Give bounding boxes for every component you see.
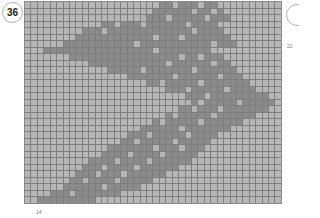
grid-cell xyxy=(275,35,280,41)
grid-cell xyxy=(102,106,107,112)
grid-cell xyxy=(237,87,242,93)
grid-cell xyxy=(243,191,248,197)
grid-cell xyxy=(173,80,178,86)
grid-cell xyxy=(179,197,184,203)
grid-cell xyxy=(250,74,255,80)
grid-cell xyxy=(141,165,146,171)
grid-cell xyxy=(173,197,178,203)
grid-cell xyxy=(205,106,210,112)
grid-cell xyxy=(38,119,43,125)
grid-cell xyxy=(121,2,126,8)
grid-cell xyxy=(205,191,210,197)
grid-cell xyxy=(108,22,113,28)
grid-cell xyxy=(121,178,126,184)
grid-cell xyxy=(160,67,165,73)
grid-cell xyxy=(83,93,88,99)
grid-cell xyxy=(231,126,236,132)
grid-cell xyxy=(198,80,203,86)
grid-cell xyxy=(269,15,274,21)
grid-cell xyxy=(76,28,81,34)
grid-cell xyxy=(166,113,171,119)
grid-cell xyxy=(186,152,191,158)
grid-cell xyxy=(141,126,146,132)
grid-cell xyxy=(76,87,81,93)
grid-cell xyxy=(96,93,101,99)
grid-cell xyxy=(147,48,152,54)
grid-cell xyxy=(173,100,178,106)
grid-cell xyxy=(64,87,69,93)
grid-cell xyxy=(269,100,274,106)
grid-cell xyxy=(38,22,43,28)
grid-cell xyxy=(31,93,36,99)
grid-cell xyxy=(108,126,113,132)
grid-cell xyxy=(198,126,203,132)
grid-cell xyxy=(186,67,191,73)
grid-cell xyxy=(263,197,268,203)
grid-cell xyxy=(115,139,120,145)
grid-cell xyxy=(160,2,165,8)
grid-cell xyxy=(224,9,229,15)
grid-cell xyxy=(134,106,139,112)
grid-cell xyxy=(25,132,30,138)
grid-cell xyxy=(186,41,191,47)
grid-cell xyxy=(198,132,203,138)
grid-cell xyxy=(96,197,101,203)
grid-cell xyxy=(237,165,242,171)
grid-cell xyxy=(256,139,261,145)
grid-cell xyxy=(173,54,178,60)
grid-cell xyxy=(128,126,133,132)
grid-cell xyxy=(121,132,126,138)
grid-cell xyxy=(198,197,203,203)
grid-cell xyxy=(83,171,88,177)
grid-cell xyxy=(160,119,165,125)
grid-cell xyxy=(243,9,248,15)
grid-cell xyxy=(115,15,120,21)
grid-cell xyxy=(147,132,152,138)
grid-cell xyxy=(211,171,216,177)
grid-cell xyxy=(275,139,280,145)
grid-cell xyxy=(57,100,62,106)
grid-cell xyxy=(198,152,203,158)
grid-cell xyxy=(89,158,94,164)
grid-cell xyxy=(115,126,120,132)
grid-cell xyxy=(70,74,75,80)
grid-cell xyxy=(166,54,171,60)
grid-cell xyxy=(83,152,88,158)
grid-cell xyxy=(263,126,268,132)
grid-cell xyxy=(108,158,113,164)
grid-cell xyxy=(231,171,236,177)
grid-cell xyxy=(134,74,139,80)
grid-cell xyxy=(237,61,242,67)
grid-cell xyxy=(57,54,62,60)
grid-cell xyxy=(160,191,165,197)
grid-cell xyxy=(108,171,113,177)
grid-cell xyxy=(115,171,120,177)
grid-cell xyxy=(64,119,69,125)
grid-cell xyxy=(25,61,30,67)
grid-cell xyxy=(224,80,229,86)
grid-cell xyxy=(70,178,75,184)
grid-cell xyxy=(83,139,88,145)
grid-cell xyxy=(108,197,113,203)
grid-cell xyxy=(115,145,120,151)
grid-cell xyxy=(237,158,242,164)
grid-cell xyxy=(275,126,280,132)
grid-cell xyxy=(243,113,248,119)
grid-cell xyxy=(76,152,81,158)
grid-cell xyxy=(89,145,94,151)
grid-cell xyxy=(186,100,191,106)
grid-cell xyxy=(108,15,113,21)
grid-cell xyxy=(57,184,62,190)
grid-cell xyxy=(108,28,113,34)
grid-cell xyxy=(89,22,94,28)
grid-cell xyxy=(179,54,184,60)
grid-cell xyxy=(243,126,248,132)
grid-cell xyxy=(192,35,197,41)
grid-cell xyxy=(237,145,242,151)
grid-cell xyxy=(51,152,56,158)
grid-cell xyxy=(51,139,56,145)
grid-cell xyxy=(205,126,210,132)
grid-cell xyxy=(38,9,43,15)
grid-cell xyxy=(173,48,178,54)
grid-cell xyxy=(153,184,158,190)
